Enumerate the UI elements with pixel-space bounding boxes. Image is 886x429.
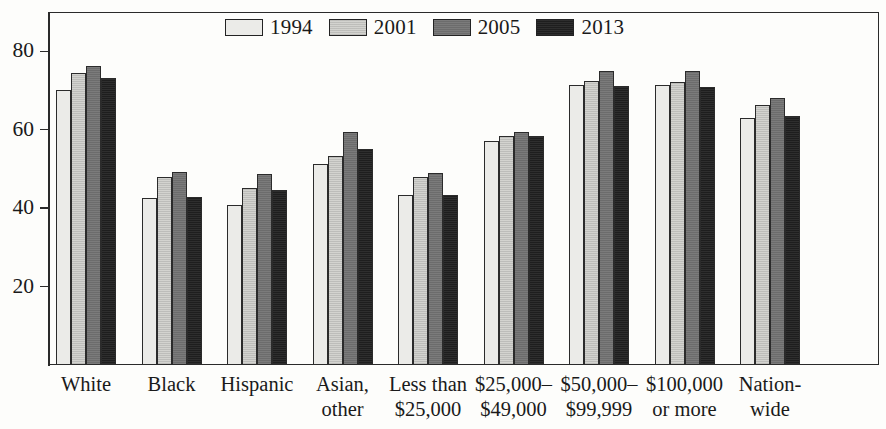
bar[interactable] — [655, 85, 670, 365]
bar[interactable] — [428, 173, 443, 365]
bar[interactable] — [740, 118, 755, 365]
bar-group — [655, 12, 715, 365]
bar[interactable] — [499, 136, 514, 365]
bar[interactable] — [358, 149, 373, 366]
bar[interactable] — [514, 132, 529, 365]
bar[interactable] — [569, 85, 584, 365]
bar-group — [484, 12, 544, 365]
bar-group — [313, 12, 373, 365]
y-tick-label: 60 — [0, 119, 34, 140]
bar-group — [740, 12, 800, 365]
bars-layer — [49, 12, 879, 365]
bar[interactable] — [685, 71, 700, 365]
bar[interactable] — [101, 78, 116, 365]
bar[interactable] — [242, 188, 257, 365]
bar[interactable] — [56, 90, 71, 365]
bar[interactable] — [142, 198, 157, 365]
bar[interactable] — [770, 98, 785, 365]
bar[interactable] — [785, 116, 800, 365]
y-tick-mark — [40, 129, 49, 130]
bar[interactable] — [443, 195, 458, 365]
bar[interactable] — [413, 177, 428, 365]
bar[interactable] — [313, 164, 328, 365]
bar[interactable] — [755, 105, 770, 365]
x-axis-labels: WhiteBlackHispanicAsian,otherLess than$2… — [0, 372, 886, 429]
bar[interactable] — [599, 71, 614, 365]
y-tick-mark — [40, 207, 49, 208]
y-tick-label: 80 — [0, 40, 34, 61]
x-axis-label-line: wide — [718, 397, 822, 422]
bar[interactable] — [584, 81, 599, 365]
bar-group — [56, 12, 116, 365]
bar[interactable] — [272, 190, 287, 365]
bar[interactable] — [700, 87, 715, 365]
bar[interactable] — [614, 86, 629, 365]
bar[interactable] — [257, 174, 272, 365]
bar[interactable] — [398, 195, 413, 365]
bar-group — [227, 12, 287, 365]
x-axis-label: Nation-wide — [718, 372, 822, 422]
bar[interactable] — [86, 66, 101, 365]
bar-chart: 20406080 1994200120052013 WhiteBlackHisp… — [0, 0, 886, 429]
bar-group — [142, 12, 202, 365]
y-tick-label: 20 — [0, 276, 34, 297]
bar[interactable] — [227, 205, 242, 365]
bar[interactable] — [71, 73, 86, 365]
bar[interactable] — [187, 197, 202, 365]
bar[interactable] — [172, 172, 187, 365]
x-axis-label-line: Nation- — [718, 372, 822, 397]
y-tick-mark — [40, 51, 49, 52]
y-tick-mark — [40, 286, 49, 287]
bar[interactable] — [328, 156, 343, 365]
bar[interactable] — [343, 132, 358, 365]
bar[interactable] — [484, 141, 499, 365]
bar[interactable] — [670, 82, 685, 365]
bar[interactable] — [157, 177, 172, 365]
bar-group — [398, 12, 458, 365]
y-tick-label: 40 — [0, 197, 34, 218]
bar-group — [569, 12, 629, 365]
bar[interactable] — [529, 136, 544, 365]
